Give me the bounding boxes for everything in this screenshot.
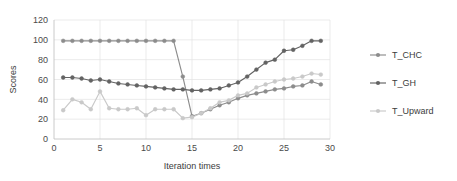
data-point bbox=[310, 39, 314, 43]
data-point bbox=[71, 97, 75, 101]
legend-label: T_CHC bbox=[392, 50, 423, 60]
legend-label: T_GH bbox=[392, 78, 416, 88]
data-point bbox=[163, 87, 167, 91]
data-point bbox=[319, 83, 323, 87]
data-point bbox=[218, 100, 222, 104]
legend-item-t-chc[interactable]: T_CHC bbox=[370, 50, 423, 60]
legend-item-t-gh[interactable]: T_GH bbox=[370, 78, 416, 88]
data-point bbox=[199, 111, 203, 115]
data-point bbox=[126, 83, 130, 87]
data-point bbox=[163, 107, 167, 111]
data-point bbox=[273, 58, 277, 62]
data-point bbox=[245, 91, 249, 95]
data-point bbox=[135, 39, 139, 43]
y-tick-label: 20 bbox=[38, 114, 48, 124]
data-point bbox=[61, 108, 65, 112]
data-point bbox=[301, 75, 305, 79]
data-point bbox=[199, 89, 203, 93]
data-point bbox=[153, 107, 157, 111]
data-point bbox=[61, 39, 65, 43]
data-point bbox=[282, 78, 286, 82]
data-point bbox=[319, 39, 323, 43]
legend-item-t-upward[interactable]: T_Upward bbox=[370, 106, 434, 116]
data-point bbox=[264, 90, 268, 94]
data-point bbox=[144, 39, 148, 43]
data-point bbox=[98, 90, 102, 94]
x-tick-label: 15 bbox=[187, 143, 197, 153]
y-tick-label: 80 bbox=[38, 55, 48, 65]
x-tick-label: 5 bbox=[97, 143, 102, 153]
data-point bbox=[71, 39, 75, 43]
y-tick-label: 60 bbox=[38, 75, 48, 85]
data-point bbox=[245, 75, 249, 79]
data-point bbox=[227, 98, 231, 102]
data-point bbox=[107, 106, 111, 110]
data-point bbox=[190, 89, 194, 93]
data-point bbox=[310, 72, 314, 76]
data-point bbox=[172, 107, 176, 111]
y-tick-label: 100 bbox=[33, 35, 48, 45]
data-point bbox=[209, 88, 213, 92]
data-point bbox=[236, 93, 240, 97]
data-point bbox=[264, 83, 268, 87]
y-tick-label: 0 bbox=[43, 134, 48, 144]
data-point bbox=[273, 88, 277, 92]
data-point bbox=[153, 39, 157, 43]
line-chart: 051015202530 020406080100120 Iteration t… bbox=[0, 0, 457, 181]
x-tick-label: 20 bbox=[233, 143, 243, 153]
data-point bbox=[144, 113, 148, 117]
data-point bbox=[61, 76, 65, 80]
data-point bbox=[98, 39, 102, 43]
y-axis-tick-labels: 020406080100120 bbox=[33, 15, 48, 144]
data-point bbox=[80, 77, 84, 81]
data-point bbox=[98, 78, 102, 82]
data-point bbox=[117, 82, 121, 86]
chart-container: 051015202530 020406080100120 Iteration t… bbox=[0, 0, 457, 181]
legend-label: T_Upward bbox=[392, 106, 434, 116]
chart-legend: T_CHCT_GHT_Upward bbox=[370, 50, 434, 116]
data-point bbox=[264, 61, 268, 65]
data-point bbox=[282, 49, 286, 53]
data-point bbox=[181, 116, 185, 120]
data-point bbox=[227, 84, 231, 88]
data-point bbox=[117, 39, 121, 43]
data-point bbox=[236, 81, 240, 85]
y-tick-label: 40 bbox=[38, 95, 48, 105]
data-point bbox=[218, 87, 222, 91]
data-point bbox=[255, 86, 259, 90]
data-point bbox=[301, 44, 305, 48]
data-point bbox=[153, 86, 157, 90]
data-point bbox=[301, 84, 305, 88]
data-point bbox=[107, 80, 111, 84]
data-point bbox=[291, 85, 295, 89]
data-point bbox=[172, 88, 176, 92]
data-point bbox=[310, 80, 314, 84]
data-point bbox=[209, 106, 213, 110]
data-point bbox=[291, 77, 295, 81]
data-point bbox=[89, 107, 93, 111]
data-point bbox=[89, 39, 93, 43]
x-tick-label: 30 bbox=[325, 143, 335, 153]
data-point bbox=[273, 80, 277, 84]
data-point bbox=[80, 100, 84, 104]
data-point bbox=[319, 73, 323, 77]
x-tick-label: 25 bbox=[279, 143, 289, 153]
data-point bbox=[126, 107, 130, 111]
x-tick-label: 10 bbox=[141, 143, 151, 153]
data-point bbox=[71, 76, 75, 80]
data-point bbox=[181, 75, 185, 79]
data-point bbox=[291, 48, 295, 52]
data-point bbox=[144, 85, 148, 89]
y-tick-label: 120 bbox=[33, 15, 48, 25]
data-point bbox=[126, 39, 130, 43]
data-point bbox=[172, 39, 176, 43]
data-point bbox=[117, 107, 121, 111]
data-point bbox=[89, 79, 93, 83]
data-point bbox=[255, 68, 259, 72]
data-point bbox=[255, 91, 259, 95]
data-point bbox=[135, 84, 139, 88]
data-point bbox=[80, 39, 84, 43]
data-point bbox=[190, 115, 194, 119]
data-point bbox=[107, 39, 111, 43]
x-tick-label: 0 bbox=[51, 143, 56, 153]
